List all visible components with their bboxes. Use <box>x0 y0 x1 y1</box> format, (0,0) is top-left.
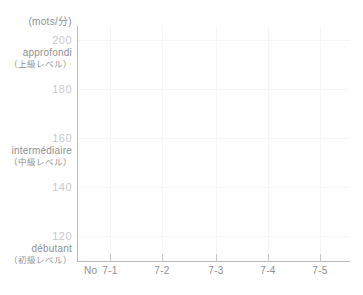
level-annotation-approfondi: approfondi （上級レベル） <box>9 47 72 70</box>
y-axis-tick-label: 160 <box>52 133 72 144</box>
y-axis-tick-label: 200 <box>52 35 72 46</box>
y-axis-unit-label: (mots/分) <box>28 13 72 28</box>
x-axis-tick-label: 7-3 <box>208 265 224 276</box>
x-axis-tick <box>268 254 269 262</box>
x-axis-tick <box>320 254 321 262</box>
y-axis-line <box>77 26 78 262</box>
y-axis-tick-label: 120 <box>52 231 72 242</box>
level-label-jp: （初級レベル） <box>9 255 72 266</box>
gridline-horizontal <box>77 236 350 237</box>
gridline-vertical <box>162 26 163 261</box>
gridline-vertical <box>110 26 111 261</box>
x-axis-tick-label: 7-2 <box>154 265 170 276</box>
gridline-horizontal <box>77 89 350 90</box>
x-axis-tick <box>110 254 111 262</box>
level-label-fr: débutant <box>9 243 72 255</box>
x-axis-tick-label: 7-4 <box>260 265 276 276</box>
y-axis-tick-label: 180 <box>52 84 72 95</box>
gridline-horizontal <box>77 138 350 139</box>
x-axis-line <box>77 261 350 262</box>
gridline-horizontal <box>77 40 350 41</box>
level-label-jp: （中級レベル） <box>9 157 72 168</box>
y-axis-tick-label: 140 <box>52 182 72 193</box>
level-annotation-intermediaire: intermédiaire （中級レベル） <box>9 145 72 168</box>
x-axis-tick-label: 7-5 <box>312 265 328 276</box>
plot-area <box>77 26 350 261</box>
gridline-vertical <box>216 26 217 261</box>
x-axis-lead-label: No <box>84 265 98 276</box>
x-axis-tick <box>216 254 217 262</box>
x-axis-tick-label: 7-1 <box>102 265 118 276</box>
level-label-fr: intermédiaire <box>9 145 72 157</box>
level-annotation-debutant: débutant （初級レベル） <box>9 243 72 266</box>
level-label-fr: approfondi <box>9 47 72 59</box>
gridline-vertical <box>268 26 269 261</box>
x-axis-tick <box>162 254 163 262</box>
gridline-horizontal <box>77 187 350 188</box>
reading-speed-chart: (mots/分) 200 180 160 140 120 approfondi … <box>0 0 363 295</box>
level-label-jp: （上級レベル） <box>9 59 72 70</box>
gridline-vertical <box>320 26 321 261</box>
